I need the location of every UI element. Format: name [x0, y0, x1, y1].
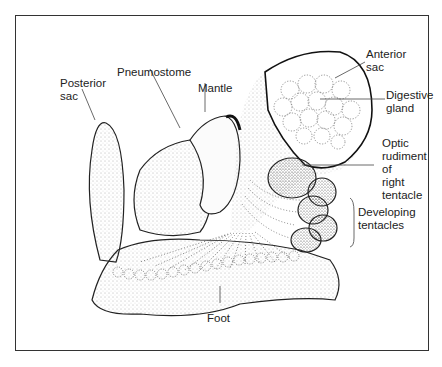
label-optic-rudiment: Opticrudimentofrighttentacle	[382, 137, 427, 202]
label-mantle: Mantle	[198, 82, 233, 95]
label-pneumostome: Pneumostome	[117, 66, 191, 79]
label-digestive-gland: Digestivegland	[386, 89, 433, 115]
posterior-sac-shape	[89, 123, 124, 262]
label-posterior-sac: Posteriorsac	[60, 77, 106, 103]
label-developing-tentacles: Developingtentacles	[358, 206, 416, 232]
label-anterior-sac: Anteriorsac	[366, 48, 406, 74]
label-foot: Foot	[207, 312, 230, 325]
